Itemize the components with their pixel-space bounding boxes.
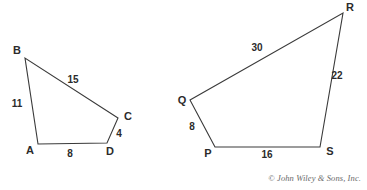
vertex-label-q: Q: [178, 94, 187, 106]
vertex-label-s: S: [326, 145, 333, 157]
vertex-label-a: A: [26, 144, 34, 156]
side-length-pq: 8: [189, 121, 195, 132]
side-length-rs: 22: [331, 70, 343, 81]
vertex-label-r: R: [346, 1, 354, 13]
side-length-ab: 11: [12, 98, 23, 109]
side-length-bc: 15: [67, 74, 79, 85]
vertex-label-d: D: [106, 145, 114, 157]
quadrilateral-pqrs-outline: [190, 13, 343, 147]
shape-quadrilateral-pqrs: P Q R S 8 30 22 16: [178, 1, 354, 160]
shape-quadrilateral-abcd: A B C D 11 15 4 8: [12, 44, 132, 159]
vertex-label-p: P: [204, 147, 211, 159]
side-length-qr: 30: [251, 42, 263, 53]
side-length-da: 8: [67, 148, 73, 159]
quadrilateral-abcd-outline: [25, 58, 118, 144]
vertex-label-b: B: [13, 44, 21, 56]
side-length-cd: 4: [116, 128, 122, 139]
vertex-label-c: C: [124, 110, 132, 122]
geometry-figure: A B C D 11 15 4 8 P Q R S 8 30 22 16 © J…: [0, 0, 367, 190]
side-length-sp: 16: [261, 149, 273, 160]
copyright-notice: © John Wiley & Sons, Inc.: [268, 173, 361, 183]
figure-canvas: A B C D 11 15 4 8 P Q R S 8 30 22 16: [0, 0, 367, 190]
